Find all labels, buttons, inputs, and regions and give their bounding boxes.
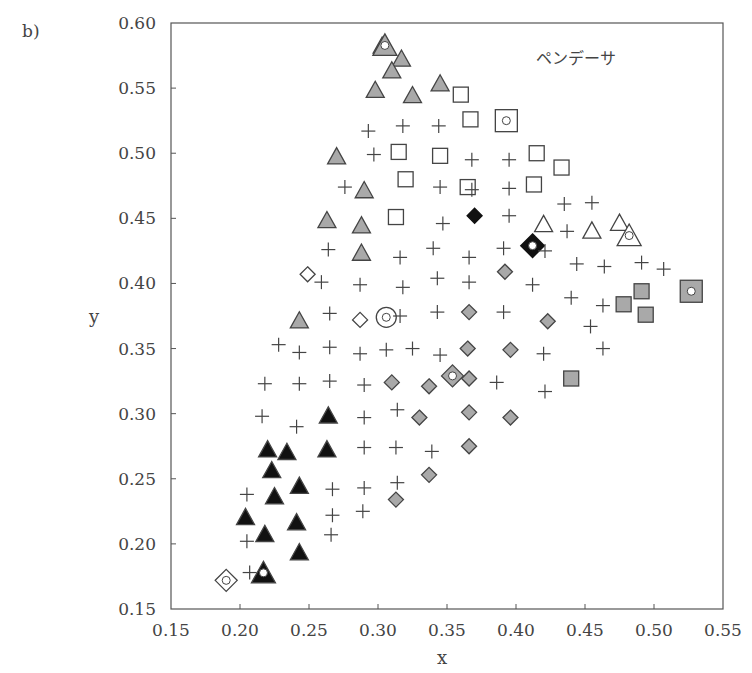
open-squares-point xyxy=(529,146,544,161)
triangle-shape xyxy=(259,441,277,457)
gray-triangles-point xyxy=(352,217,370,233)
x-tick-label: 0.25 xyxy=(290,620,328,640)
diamond-shape xyxy=(540,314,555,329)
x-tick-label: 0.55 xyxy=(704,620,742,640)
square-shape xyxy=(391,144,406,159)
gray-triangles-point xyxy=(431,75,449,91)
crosses-point xyxy=(430,305,444,319)
diamond-shape xyxy=(462,305,477,320)
triangle-shape xyxy=(611,214,629,230)
crosses-point xyxy=(389,441,403,455)
center-dot xyxy=(449,372,457,380)
crosses-point xyxy=(357,411,371,425)
x-tick-label: 0.20 xyxy=(221,620,259,640)
crosses-point xyxy=(564,291,578,305)
triangle-shape xyxy=(366,81,384,97)
gray-diamonds-point xyxy=(497,264,512,279)
y-tick-label: 0.30 xyxy=(118,404,156,424)
open-squares-point xyxy=(526,177,541,192)
x-tick-label: 0.50 xyxy=(635,620,673,640)
crosses-point xyxy=(367,148,381,162)
crosses-point xyxy=(338,180,352,194)
crosses-point xyxy=(396,280,410,294)
triangle-shape xyxy=(328,148,346,164)
center-dot xyxy=(222,576,230,584)
square-shape xyxy=(634,284,649,299)
diamond-shape xyxy=(300,267,315,282)
square-shape xyxy=(463,112,478,127)
diamond-shape xyxy=(422,379,437,394)
crosses-point xyxy=(357,378,371,392)
square-shape xyxy=(638,307,653,322)
open-squares-point xyxy=(453,87,468,102)
crosses-point xyxy=(323,340,337,354)
center-dot xyxy=(382,313,390,321)
square-shape xyxy=(453,87,468,102)
gray-diamonds-point xyxy=(503,410,518,425)
crosses-point xyxy=(357,441,371,455)
crosses-point xyxy=(292,345,306,359)
axes: 0.150.200.250.300.350.400.450.500.550.15… xyxy=(118,13,742,640)
diamond-shape xyxy=(460,341,475,356)
crosses-point xyxy=(502,209,516,223)
crosses-point xyxy=(240,534,254,548)
crosses-point xyxy=(361,124,375,138)
x-tick-label: 0.45 xyxy=(566,620,604,640)
square-shape xyxy=(526,177,541,192)
black-triangles-point xyxy=(278,443,296,459)
gray-triangles-point xyxy=(366,81,384,97)
open-squares-point xyxy=(388,210,403,225)
crosses-point xyxy=(433,348,447,362)
crosses-point xyxy=(314,275,328,289)
open-triangles-point xyxy=(611,214,629,230)
y-tick-label: 0.45 xyxy=(118,208,156,228)
triangle-shape xyxy=(352,217,370,233)
crosses-point xyxy=(379,343,393,357)
crosses-point xyxy=(393,250,407,264)
black-triangles-point xyxy=(290,477,308,493)
black-triangles-point xyxy=(266,488,284,504)
crosses-point xyxy=(526,278,540,292)
triangle-shape xyxy=(318,441,336,457)
gray-triangles-point xyxy=(355,182,373,198)
diamond-shape xyxy=(353,312,368,327)
triangle-shape xyxy=(263,462,281,478)
crosses-point xyxy=(240,487,254,501)
gray-triangles-point xyxy=(318,211,336,227)
black-triangles-point xyxy=(319,407,337,423)
gray-diamonds-point xyxy=(503,342,518,357)
crosses-point xyxy=(462,275,476,289)
panel-label: b) xyxy=(22,21,40,41)
crosses-point xyxy=(560,224,574,238)
crosses-point xyxy=(433,180,447,194)
crosses-point xyxy=(353,347,367,361)
open-triangles-point xyxy=(583,222,601,238)
diamond-shape xyxy=(503,342,518,357)
black-triangles-point xyxy=(263,462,281,478)
x-tick-label: 0.15 xyxy=(152,620,190,640)
gray-diamonds-point xyxy=(422,467,437,482)
square-shape xyxy=(529,146,544,161)
triangle-shape xyxy=(290,312,308,328)
crosses-point xyxy=(490,375,504,389)
square-shape xyxy=(554,160,569,175)
gray-diamonds-point xyxy=(412,410,427,425)
square-shape xyxy=(433,148,448,163)
black-triangles-point xyxy=(290,544,308,560)
crosses-point xyxy=(292,377,306,391)
crosses-point xyxy=(426,241,440,255)
open-squares-point xyxy=(433,148,448,163)
square-shape xyxy=(398,172,413,187)
open-triangles-point xyxy=(535,215,553,231)
diamond-shape xyxy=(462,439,477,454)
crosses-point xyxy=(538,385,552,399)
gray-diamonds-point xyxy=(462,439,477,454)
crosses-point xyxy=(502,153,516,167)
center-dot xyxy=(687,287,695,295)
crosses-point xyxy=(635,256,649,270)
gray-diamonds-point xyxy=(462,371,477,386)
triangle-shape xyxy=(355,182,373,198)
crosses-point xyxy=(585,196,599,210)
gray-squares-point xyxy=(638,307,653,322)
y-tick-label: 0.60 xyxy=(118,13,156,33)
